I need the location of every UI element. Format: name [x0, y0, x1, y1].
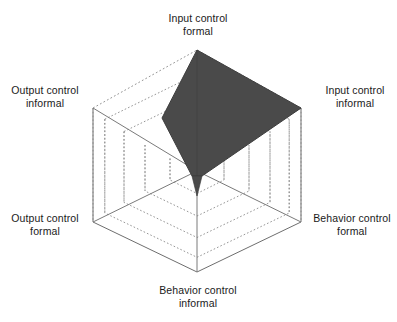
axis-label-input-control-formal: Input control formal: [148, 12, 248, 37]
axis-label-behavior-control-formal: Behavior control formal: [306, 212, 397, 237]
axis-label-line: formal: [2, 225, 88, 238]
axis-label-line: Behavior control: [140, 284, 256, 297]
data-series-control-profile: [162, 50, 301, 196]
axis-label-line: informal: [140, 297, 256, 310]
axis-label-line: Input control: [312, 84, 397, 97]
axis-label-line: informal: [312, 97, 397, 110]
axis-label-line: Output control: [2, 84, 88, 97]
data-polygon: [162, 50, 301, 176]
axis-label-behavior-control-informal: Behavior control informal: [140, 284, 256, 309]
axis-behavior-control-formal: [197, 171, 301, 222]
axis-label-line: Output control: [2, 212, 88, 225]
radar-chart-figure: Input control formal Input control infor…: [0, 0, 397, 322]
radar-chart-canvas: [0, 0, 397, 322]
data-spike-bottom: [192, 176, 202, 196]
axis-label-input-control-informal: Input control informal: [312, 84, 397, 109]
axis-label-line: formal: [306, 225, 397, 238]
axis-label-output-control-informal: Output control informal: [2, 84, 88, 109]
axis-label-line: formal: [148, 25, 248, 38]
axis-label-line: Behavior control: [306, 212, 397, 225]
axis-label-line: Input control: [148, 12, 248, 25]
axis-label-line: informal: [2, 97, 88, 110]
axis-label-output-control-formal: Output control formal: [2, 212, 88, 237]
